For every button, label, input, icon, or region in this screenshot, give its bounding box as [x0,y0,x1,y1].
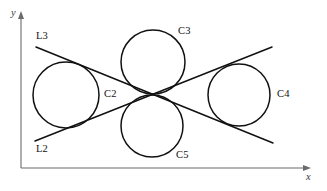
label-c5: C5 [176,150,189,161]
circle-c5 [121,95,183,157]
axis-label-y: y [11,8,16,19]
circle-c3 [121,30,185,94]
figure-container: L3 L2 C2 C3 C4 C5 y x [0,0,327,191]
label-c4: C4 [277,89,290,100]
axis-label-x: x [306,172,311,183]
circle-c2 [33,62,99,128]
y-axis-arrow-icon [18,11,24,19]
label-c3: C3 [178,26,191,37]
lines-group [35,47,273,143]
circle-c4 [208,64,270,126]
label-c2: C2 [104,89,117,100]
label-l3: L3 [36,31,48,42]
axes-group [18,11,311,171]
label-l2: L2 [36,144,48,155]
